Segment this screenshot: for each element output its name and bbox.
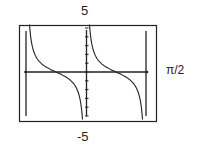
graph-screen <box>0 0 197 149</box>
x-axis-end-dot <box>24 71 27 74</box>
x-axis-end-dot <box>146 71 149 74</box>
